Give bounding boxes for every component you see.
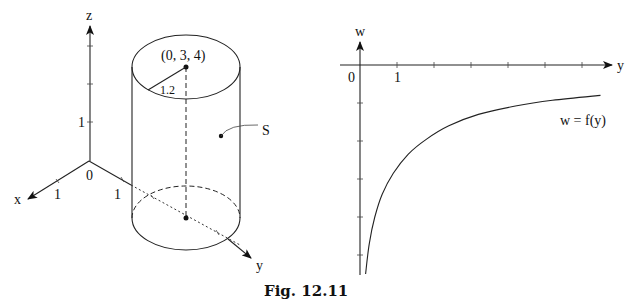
y-tick-label: 1 <box>114 187 121 202</box>
y-tick-hidden <box>151 195 154 199</box>
figure-caption: Fig. 12.11 <box>264 282 348 300</box>
z-axis-label: z <box>86 8 92 23</box>
y-axis-segment <box>89 161 131 185</box>
figure-canvas: z 1 x 1 0 y 1 1.2 (0, 3, 4) <box>0 0 629 302</box>
y-axis-segment <box>228 239 251 258</box>
curve-label: w = f(y) <box>560 113 606 129</box>
radius-label: 1.2 <box>160 83 175 97</box>
y-axis-label-right: y <box>617 58 624 73</box>
origin-label: 0 <box>86 168 93 183</box>
cylinder-bottom-front-arc <box>132 218 240 250</box>
center-coordinate-label: (0, 3, 4) <box>161 48 206 64</box>
plot-origin-label: 0 <box>348 70 355 85</box>
z-tick-label: 1 <box>78 115 85 130</box>
x-tick-label: 1 <box>394 70 401 85</box>
y-axis-label: y <box>256 258 263 273</box>
x-axis-label: x <box>14 192 21 207</box>
surface-label: S <box>262 123 270 138</box>
y-tick-hidden <box>216 230 219 235</box>
left-panel-3d: z 1 x 1 0 y 1 1.2 (0, 3, 4) <box>14 8 270 273</box>
right-panel-plot: w y 0 1 w = f(y) <box>340 24 624 275</box>
w-axis-label: w <box>355 24 366 39</box>
x-tick-label: 1 <box>54 187 61 202</box>
bottom-center-point <box>184 216 189 221</box>
